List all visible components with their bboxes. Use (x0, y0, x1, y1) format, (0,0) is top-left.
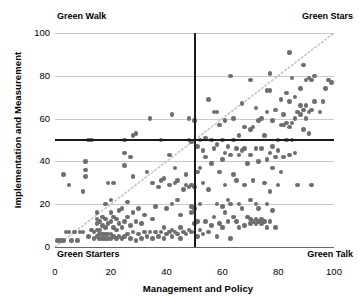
data-point (293, 151, 298, 156)
data-point (259, 146, 264, 151)
y-tick-label-20: 20 (24, 198, 50, 209)
data-point (170, 234, 175, 239)
data-point (284, 91, 289, 96)
data-point (237, 225, 242, 230)
data-point (242, 223, 247, 228)
data-point (273, 108, 278, 113)
data-point (223, 151, 228, 156)
scatter-plot-figure: Implementation and Measurement Managemen… (0, 0, 359, 301)
data-point (270, 166, 275, 171)
data-point (262, 181, 267, 186)
data-point (281, 155, 286, 160)
data-point (279, 170, 284, 175)
data-point (178, 213, 183, 218)
plot-area (55, 33, 334, 247)
data-point (301, 63, 306, 68)
data-point (198, 202, 203, 207)
data-point (139, 221, 144, 226)
data-point (131, 230, 136, 235)
data-point (242, 125, 247, 130)
data-point (220, 157, 225, 162)
data-point (162, 236, 167, 241)
x-tick-label-80: 80 (263, 266, 293, 277)
data-point (206, 187, 211, 192)
data-point (237, 133, 242, 138)
data-point (61, 238, 66, 243)
data-point (150, 181, 155, 186)
data-point (231, 116, 236, 121)
data-point (145, 170, 150, 175)
data-point (228, 202, 233, 207)
data-point (145, 234, 150, 239)
data-point (206, 97, 211, 102)
data-point (203, 219, 208, 224)
data-point (136, 206, 141, 211)
data-point (298, 112, 303, 117)
data-point (150, 217, 155, 222)
data-point (128, 223, 133, 228)
data-point (131, 174, 136, 179)
data-point (114, 228, 119, 233)
data-point (262, 133, 267, 138)
data-point (120, 206, 125, 211)
y-tick-label-100: 100 (24, 27, 50, 38)
data-point (318, 110, 323, 115)
data-point (128, 236, 133, 241)
data-point (153, 204, 158, 209)
data-point (125, 215, 130, 220)
data-point (156, 185, 161, 190)
data-point (198, 166, 203, 171)
data-point (228, 74, 233, 79)
data-point (223, 210, 228, 215)
data-point (293, 95, 298, 100)
quadrant-label-top-right: Green Stars (302, 11, 353, 21)
data-point (226, 219, 231, 224)
data-point (170, 112, 175, 117)
data-point (215, 142, 220, 147)
data-point (162, 176, 167, 181)
data-point (321, 99, 326, 104)
data-point (237, 153, 242, 158)
data-point (195, 144, 200, 149)
data-point (265, 225, 270, 230)
data-point (309, 108, 314, 113)
data-point (209, 223, 214, 228)
data-point (223, 118, 228, 123)
data-point (276, 148, 281, 153)
data-point (268, 151, 273, 156)
data-point (125, 200, 130, 205)
quadrant-label-bottom-right: Green Talk (307, 249, 353, 259)
data-point (248, 78, 253, 83)
data-point (295, 183, 300, 188)
data-point (279, 97, 284, 102)
x-tick-label-100: 100 (319, 266, 349, 277)
data-point (245, 161, 250, 166)
data-point (181, 187, 186, 192)
data-point (251, 125, 256, 130)
data-point (323, 86, 328, 91)
data-point (201, 148, 206, 153)
data-point (195, 219, 200, 224)
data-point (215, 110, 220, 115)
data-point (242, 146, 247, 151)
data-point (270, 144, 275, 149)
data-point (170, 202, 175, 207)
data-point (262, 219, 267, 224)
data-point (265, 157, 270, 162)
data-point (103, 225, 108, 230)
data-point (81, 230, 86, 235)
data-point (83, 168, 88, 173)
y-axis-title: Implementation and Measurement (12, 10, 23, 250)
data-point (312, 99, 317, 104)
data-point (309, 78, 314, 83)
data-point (212, 146, 217, 151)
data-point (95, 210, 100, 215)
data-point (312, 74, 317, 79)
data-point (217, 170, 222, 175)
data-point (195, 170, 200, 175)
data-point (122, 151, 127, 156)
data-point (215, 202, 220, 207)
data-point (215, 234, 220, 239)
data-point (228, 153, 233, 158)
median-line-vertical (194, 33, 196, 247)
